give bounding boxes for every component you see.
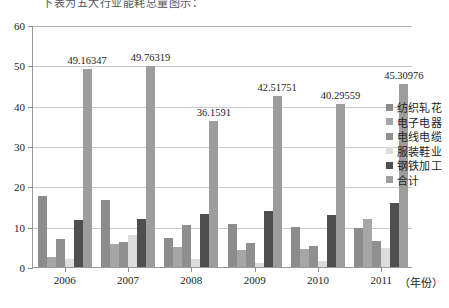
bar bbox=[237, 250, 246, 267]
bar: 49.76319 bbox=[146, 66, 155, 267]
legend-item[interactable]: 服装鞋业 bbox=[386, 144, 442, 159]
x-axis-title: （年份） bbox=[399, 274, 443, 290]
legend-item[interactable]: 纺织轧花 bbox=[386, 100, 442, 115]
bar-chart: 下表为五大行业能耗总量图示： 010203040506049.163472006… bbox=[0, 0, 449, 308]
bar bbox=[309, 246, 318, 267]
bar: 40.29559 bbox=[336, 104, 345, 267]
plot-inner: 010203040506049.16347200649.76319200736.… bbox=[33, 26, 412, 267]
bar bbox=[300, 249, 309, 267]
legend-swatch-icon bbox=[386, 147, 393, 154]
chart-legend: 纺织轧花电子电器电线电缆服装鞋业钢铁加工合计 bbox=[386, 100, 442, 187]
x-axis-label: 2010 bbox=[307, 274, 329, 286]
bar bbox=[255, 263, 264, 267]
bar bbox=[74, 220, 83, 267]
bar-value-label: 36.1591 bbox=[197, 107, 231, 118]
plot-area: 010203040506049.16347200649.76319200736.… bbox=[32, 26, 412, 268]
y-axis-label: 0 bbox=[20, 262, 26, 274]
bar bbox=[318, 261, 327, 267]
y-axis-label: 60 bbox=[14, 20, 25, 32]
y-axis-label: 20 bbox=[14, 181, 25, 193]
legend-swatch-icon bbox=[386, 133, 393, 140]
bar bbox=[173, 247, 182, 267]
y-axis-label: 40 bbox=[14, 101, 25, 113]
legend-swatch-icon bbox=[386, 104, 393, 111]
bar bbox=[65, 259, 74, 267]
bar-group: 49.76319 bbox=[101, 26, 155, 267]
x-axis-label: 2006 bbox=[54, 274, 76, 286]
x-axis-tick bbox=[128, 267, 129, 272]
legend-item[interactable]: 电线电缆 bbox=[386, 129, 442, 144]
bar bbox=[110, 244, 119, 267]
bar bbox=[38, 196, 47, 267]
y-axis-label: 30 bbox=[14, 141, 25, 153]
bar bbox=[191, 259, 200, 267]
legend-swatch-icon bbox=[386, 118, 393, 125]
bar bbox=[372, 241, 381, 267]
x-axis-label: 2008 bbox=[180, 274, 202, 286]
bar bbox=[200, 214, 209, 267]
x-axis-tick bbox=[381, 267, 382, 272]
y-axis-label: 50 bbox=[14, 60, 25, 72]
bar bbox=[56, 239, 65, 267]
bar-group: 49.16347 bbox=[38, 26, 92, 267]
bar bbox=[137, 219, 146, 267]
y-axis-tick bbox=[28, 187, 33, 188]
bar bbox=[119, 242, 128, 267]
legend-swatch-icon bbox=[386, 162, 393, 169]
x-axis-tick bbox=[191, 267, 192, 272]
y-axis-label: 10 bbox=[14, 222, 25, 234]
bar-group: 42.51751 bbox=[228, 26, 282, 267]
y-axis-tick bbox=[28, 268, 33, 269]
bar bbox=[228, 224, 237, 267]
y-axis-tick bbox=[28, 26, 33, 27]
bar bbox=[101, 200, 110, 267]
x-axis-label: 2007 bbox=[117, 274, 139, 286]
bar bbox=[291, 227, 300, 267]
bar bbox=[264, 211, 273, 267]
bar bbox=[128, 235, 137, 267]
legend-label: 合计 bbox=[397, 172, 419, 188]
bar bbox=[327, 215, 336, 267]
bar bbox=[363, 219, 372, 267]
bar: 49.16347 bbox=[83, 69, 92, 267]
bar-value-label: 45.30976 bbox=[384, 70, 423, 81]
bar: 36.1591 bbox=[209, 121, 218, 267]
y-axis-tick bbox=[28, 147, 33, 148]
legend-swatch-icon bbox=[386, 176, 393, 183]
legend-item[interactable]: 合计 bbox=[386, 173, 442, 188]
x-axis-tick bbox=[318, 267, 319, 272]
legend-item[interactable]: 钢铁加工 bbox=[386, 158, 442, 173]
bar bbox=[381, 248, 390, 267]
y-axis-tick bbox=[28, 228, 33, 229]
bar: 42.51751 bbox=[273, 96, 282, 267]
y-axis-tick bbox=[28, 66, 33, 67]
bar bbox=[182, 225, 191, 267]
bar bbox=[390, 203, 399, 267]
x-axis-tick bbox=[65, 267, 66, 272]
bar bbox=[354, 228, 363, 267]
y-axis-tick bbox=[28, 107, 33, 108]
x-axis-tick bbox=[255, 267, 256, 272]
bar bbox=[164, 238, 173, 267]
bar-group: 40.29559 bbox=[291, 26, 345, 267]
bar bbox=[246, 243, 255, 267]
bar-group: 36.1591 bbox=[164, 26, 218, 267]
top-caption: 下表为五大行业能耗总量图示： bbox=[42, 0, 203, 10]
x-axis-label: 2009 bbox=[244, 274, 266, 286]
bar bbox=[47, 257, 56, 267]
x-axis-label: 2011 bbox=[371, 274, 393, 286]
legend-item[interactable]: 电子电器 bbox=[386, 115, 442, 130]
